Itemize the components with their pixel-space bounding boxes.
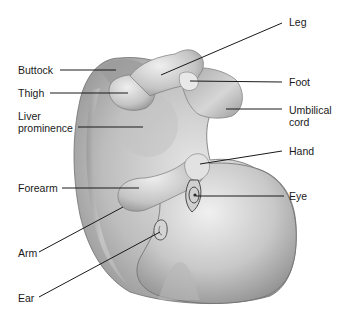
label-leg: Leg (289, 16, 307, 28)
label-ear: Ear (18, 292, 34, 304)
label-umbilical-cord: Umbilical cord (289, 104, 332, 128)
ear (154, 220, 167, 240)
embryo-illustration (74, 50, 296, 304)
label-liver-prominence: Liver prominence (18, 110, 73, 134)
label-forearm: Forearm (18, 182, 58, 194)
label-thigh: Thigh (18, 87, 44, 99)
label-eye: Eye (289, 190, 307, 202)
label-buttock: Buttock (18, 64, 53, 76)
embryo-diagram (0, 0, 343, 330)
label-hand: Hand (289, 145, 314, 157)
label-foot: Foot (289, 76, 310, 88)
leader-line-leg (161, 23, 282, 75)
label-arm: Arm (18, 247, 37, 259)
